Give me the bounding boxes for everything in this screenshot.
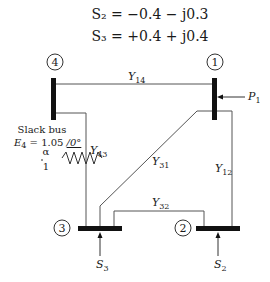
line-y32 bbox=[114, 211, 204, 226]
svg-text:3: 3 bbox=[59, 222, 66, 235]
bus-3-label: 3 bbox=[54, 220, 70, 236]
bus-2-bar bbox=[196, 226, 240, 231]
bus-4-bar bbox=[51, 78, 56, 120]
label-y14: Y14 bbox=[128, 70, 145, 85]
label-p1: P1 bbox=[247, 90, 261, 105]
equation-s3: S₃ = +0.4 + j0.4 bbox=[91, 28, 208, 44]
s2-arrow-icon bbox=[216, 232, 221, 256]
slack-bus-title: Slack bus bbox=[18, 124, 67, 135]
label-y12: Y12 bbox=[215, 162, 232, 177]
svg-text:1: 1 bbox=[212, 56, 219, 69]
label-y32: Y32 bbox=[152, 196, 169, 211]
bus-1-label: 1 bbox=[207, 54, 223, 70]
label-s2: S2 bbox=[214, 258, 227, 273]
s3-arrow-icon bbox=[98, 232, 103, 256]
transformer-ratio: 1 bbox=[43, 161, 49, 172]
bus-4-label: 4 bbox=[47, 54, 63, 70]
power-system-diagram: S₂ = −0.4 − j0.3 S₃ = +0.4 + j0.4 4 1 3 … bbox=[0, 0, 270, 282]
label-y31: Y31 bbox=[152, 155, 169, 170]
label-s3: S3 bbox=[96, 258, 109, 273]
svg-text:4: 4 bbox=[52, 56, 59, 69]
equation-s2: S₂ = −0.4 − j0.3 bbox=[91, 6, 208, 22]
label-y43: Y43 bbox=[90, 144, 107, 159]
svg-text:2: 2 bbox=[180, 222, 187, 235]
bus-2-label: 2 bbox=[175, 220, 191, 236]
bus-1-bar bbox=[212, 78, 217, 120]
p1-arrow-icon bbox=[217, 95, 245, 100]
bus-3-bar bbox=[78, 226, 122, 231]
